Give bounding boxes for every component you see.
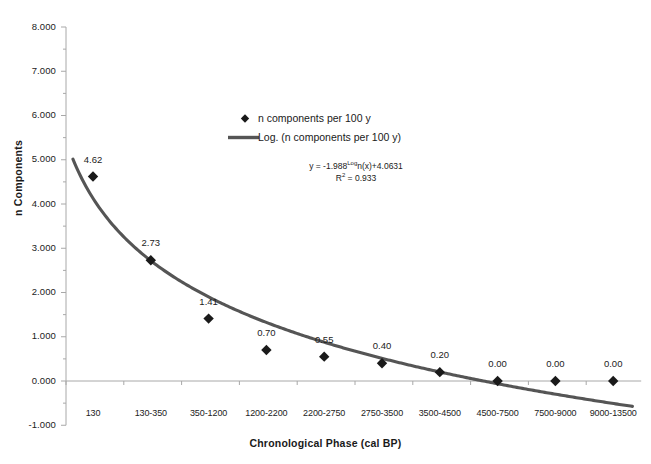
data-point-marker xyxy=(203,313,213,323)
data-point-marker xyxy=(261,345,271,355)
data-point-marker xyxy=(550,376,560,386)
data-point-value-label: 0.70 xyxy=(257,327,276,338)
data-point-value-label: 0.20 xyxy=(431,349,450,360)
data-point-marker xyxy=(608,376,618,386)
chart-container: 8.0007.0006.0005.0004.0003.0002.0001.000… xyxy=(0,0,651,464)
chart-canvas xyxy=(0,0,651,464)
legend-item-series: n components per 100 y xyxy=(258,112,371,124)
y-axis-tick-label: 7.000 xyxy=(10,65,56,76)
trendline-equation: y = -1.988Logn(x)+4.0631 xyxy=(309,160,403,171)
data-point-value-label: 2.73 xyxy=(142,237,161,248)
data-point-value-label: 0.00 xyxy=(604,358,623,369)
data-point-value-label: 4.62 xyxy=(84,154,103,165)
data-point-value-label: 0.00 xyxy=(488,358,507,369)
legend-diamond-marker xyxy=(241,114,249,122)
data-point-marker xyxy=(319,351,329,361)
y-axis-tick-label: -1.000 xyxy=(10,419,56,430)
trendline-r-squared: R2 = 0.933 xyxy=(336,172,376,183)
data-point-value-label: 0.55 xyxy=(315,334,334,345)
x-axis-title: Chronological Phase (cal BP) xyxy=(0,437,651,449)
y-axis-title: n Components xyxy=(12,118,24,238)
legend-glyphs xyxy=(228,114,259,137)
y-axis-tick-label: 3.000 xyxy=(10,242,56,253)
x-axis-tick-label: 9000-13500 xyxy=(573,408,651,418)
y-axis-tick-label: 8.000 xyxy=(10,21,56,32)
trendline xyxy=(73,159,633,406)
data-point-marker xyxy=(435,367,445,377)
axis-layer xyxy=(61,27,66,425)
y-axis-tick-label: 1.000 xyxy=(10,330,56,341)
y-axis-tick-label: 2.000 xyxy=(10,286,56,297)
data-markers xyxy=(88,171,619,386)
data-point-value-label: 1.41 xyxy=(199,296,218,307)
y-axis-tick-label: 0.000 xyxy=(10,375,56,386)
legend-item-trendline: Log. (n components per 100 y) xyxy=(258,131,401,143)
data-point-marker xyxy=(88,171,98,181)
data-point-value-label: 0.40 xyxy=(373,340,392,351)
data-point-value-label: 0.00 xyxy=(546,358,565,369)
